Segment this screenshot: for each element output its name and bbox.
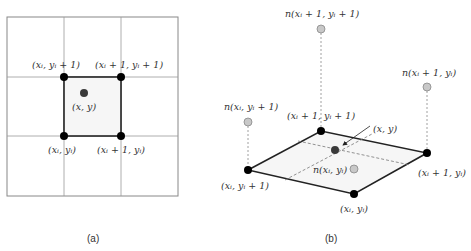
label-n-right: n(xᵢ + 1, yᵢ): [402, 67, 456, 78]
panel-a: (xᵢ, yᵢ + 1) (xᵢ + 1, yᵢ + 1) (x, y) (xᵢ…: [7, 17, 178, 244]
label-left-corner: (xᵢ, yᵢ + 1): [221, 180, 269, 191]
label-center: (x, y): [72, 101, 96, 112]
label-bottom-right: (xᵢ + 1, yᵢ): [97, 144, 145, 155]
node-top-right: [117, 73, 125, 81]
node-left-corner: [244, 166, 252, 174]
label-top-corner: (xᵢ + 1, yᵢ + 1): [287, 110, 355, 121]
label-top-right: (xᵢ + 1, yᵢ + 1): [95, 59, 163, 70]
label-n-center: n(xᵢ, yᵢ): [313, 164, 347, 175]
caption-b: (b): [325, 233, 337, 244]
label-top-left: (xᵢ, yᵢ + 1): [32, 59, 80, 70]
caption-a: (a): [87, 233, 99, 244]
panel-b: n(xᵢ + 1, yᵢ + 1) n(xᵢ + 1, yᵢ) n(xᵢ, yᵢ…: [221, 8, 466, 244]
node-top-left: [60, 73, 68, 81]
gray-node-right: [423, 83, 431, 91]
label-n-left: n(xᵢ, yᵢ + 1): [224, 101, 278, 112]
sample-point: [80, 89, 88, 97]
node-bottom-left: [60, 132, 68, 140]
gray-node-left: [244, 118, 252, 126]
node-bottom-right: [117, 132, 125, 140]
label-n-top: n(xᵢ + 1, yᵢ + 1): [285, 8, 359, 19]
label-bottom-left: (xᵢ, yᵢ): [48, 144, 76, 155]
diagram-canvas: (xᵢ, yᵢ + 1) (xᵢ + 1, yᵢ + 1) (x, y) (xᵢ…: [0, 0, 471, 251]
gray-node-top: [317, 25, 325, 33]
node-top-corner: [317, 127, 325, 135]
gray-node-center: [350, 165, 358, 173]
node-right-corner: [423, 149, 431, 157]
cell-parallelogram: [248, 131, 427, 194]
sample-point-b: [331, 146, 339, 154]
label-bottom-corner: (xᵢ, yᵢ): [340, 203, 368, 214]
node-bottom-corner: [350, 190, 358, 198]
label-point: (x, y): [373, 123, 397, 134]
label-right-corner: (xᵢ + 1, yᵢ): [418, 167, 466, 178]
